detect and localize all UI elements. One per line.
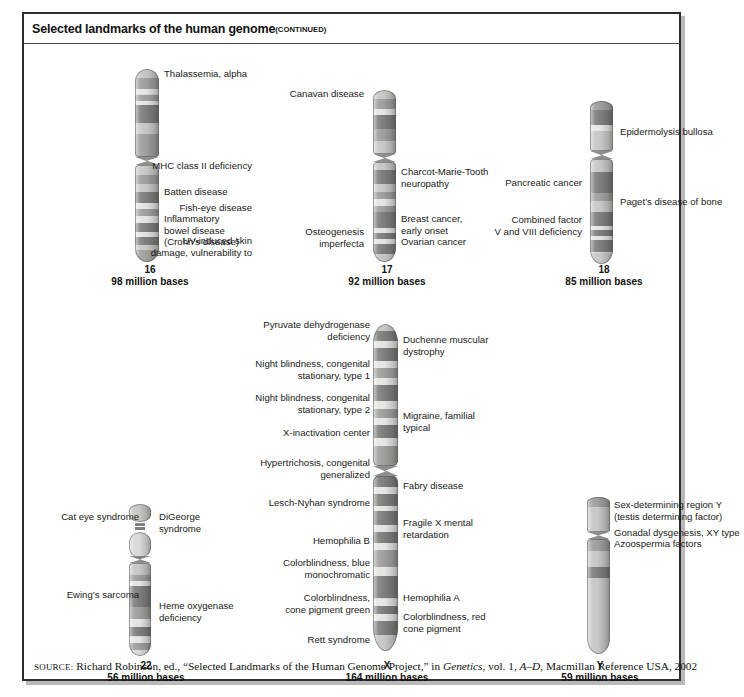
chr18-size: 85 million bases bbox=[524, 276, 684, 288]
chromosome-band bbox=[135, 123, 159, 134]
chromosome-band bbox=[373, 212, 396, 228]
chromosome-band bbox=[373, 361, 398, 368]
chromosome-band bbox=[135, 105, 159, 123]
chromosome-band bbox=[587, 567, 610, 579]
figure-title-text: Selected landmarks of the human genome bbox=[32, 22, 275, 36]
chr16-name: 16 bbox=[90, 264, 210, 276]
chromosome-band bbox=[373, 425, 398, 438]
source-part-3: , Macmillan Reference USA, 2002 bbox=[540, 660, 697, 672]
chromosome-band bbox=[590, 131, 613, 151]
chr16-size: 98 million bases bbox=[70, 276, 230, 288]
chromatid-arm bbox=[587, 539, 610, 654]
chry-label-right-1: Gonadal dysgenesis, XY type bbox=[614, 527, 744, 539]
centromere bbox=[129, 556, 151, 563]
chromosome-18 bbox=[590, 101, 613, 264]
chr22-label-left-1: Ewing’s sarcoma bbox=[34, 589, 139, 601]
chromosome-band bbox=[129, 563, 151, 575]
chromosome-band bbox=[135, 69, 159, 78]
centromere bbox=[587, 532, 610, 539]
chry-label-right-2: Azoospermia factors bbox=[614, 538, 744, 550]
chromatid-arm bbox=[129, 563, 151, 656]
chrx-label-left-1: Night blindness, congenital stationary, … bbox=[242, 358, 370, 381]
chromosome-band bbox=[135, 216, 159, 223]
chromosome-band bbox=[373, 446, 398, 466]
chr16-label-left-0: MHC class II deficiency bbox=[34, 160, 252, 172]
centromere bbox=[590, 151, 613, 159]
chr18-label-right-1: Paget’s disease of bone bbox=[620, 196, 744, 208]
chromosome-band bbox=[373, 476, 398, 487]
chromatid-arm bbox=[590, 159, 613, 264]
chr17-size: 92 million bases bbox=[307, 276, 467, 288]
chromosome-band bbox=[373, 543, 398, 550]
chromatid-arm bbox=[129, 532, 151, 558]
chromosome-x bbox=[373, 324, 398, 651]
chr17-name: 17 bbox=[327, 264, 447, 276]
chromosome-band bbox=[590, 193, 613, 201]
chromosome-band bbox=[587, 551, 610, 567]
chrx-label-left-9: Rett syndrome bbox=[242, 634, 370, 646]
chromatid-arm bbox=[590, 101, 613, 151]
chromosome-band bbox=[129, 643, 151, 650]
chromosome-band bbox=[590, 201, 613, 212]
chrx-size: 164 million bases bbox=[302, 672, 472, 684]
chrx-label-left-3: X-inactivation center bbox=[242, 427, 370, 439]
chrx-label-right-5: Colorblindness, red cone pigment bbox=[403, 611, 553, 634]
chromosome-band bbox=[373, 184, 396, 192]
chromosome-band bbox=[373, 99, 396, 109]
chromosome-band bbox=[373, 576, 398, 599]
chromosome-band bbox=[135, 78, 159, 89]
chromosome-band bbox=[590, 110, 613, 125]
chromosome-band bbox=[373, 141, 396, 154]
chrx-label-right-1: Migraine, familial typical bbox=[403, 410, 553, 433]
chromosome-band bbox=[373, 511, 398, 525]
satellite-stalk bbox=[135, 523, 145, 526]
chromosome-band bbox=[373, 254, 396, 262]
chromosome-band bbox=[373, 129, 396, 141]
chromosome-band bbox=[129, 607, 151, 619]
source-citation: SOURCE: Richard Robinson, ed., “Selected… bbox=[34, 660, 697, 672]
chrx-label-left-5: Lesch-Nyhan syndrome bbox=[242, 497, 370, 509]
chromosome-band bbox=[590, 101, 613, 110]
chromosome-band bbox=[587, 578, 610, 654]
figure-title-continued: (CONTINUED) bbox=[275, 25, 326, 34]
chromosome-band bbox=[129, 627, 151, 636]
chromosome-band bbox=[373, 438, 398, 447]
chromosome-band bbox=[135, 184, 159, 192]
figure-title: Selected landmarks of the human genome(C… bbox=[32, 22, 326, 36]
chr16-label-right-1: Batten disease bbox=[164, 186, 344, 198]
satellite-stalk bbox=[135, 527, 145, 530]
chromosome-band bbox=[373, 331, 398, 341]
chromosome-band bbox=[135, 175, 159, 185]
chromosome-band bbox=[587, 539, 610, 551]
chromosome-band bbox=[587, 523, 610, 532]
chromatid-arm bbox=[587, 497, 610, 532]
chromosome-band bbox=[373, 90, 396, 99]
chromosome-band bbox=[373, 550, 398, 568]
chromosome-band bbox=[373, 635, 398, 651]
chromosome-17 bbox=[373, 90, 396, 262]
chromosome-y bbox=[587, 497, 610, 654]
chromosome-band bbox=[129, 619, 151, 627]
chromosome-band bbox=[373, 418, 398, 425]
chr18-label-left-1: Combined factor V and VIII deficiency bbox=[456, 214, 582, 237]
chromosome-band bbox=[590, 253, 613, 265]
chromosome-band bbox=[373, 487, 398, 494]
chromosome-band bbox=[373, 324, 398, 331]
chromatid-arm bbox=[373, 162, 396, 262]
chr17-label-left-1: Osteogenesis imperfecta bbox=[256, 226, 364, 249]
chromosome-band bbox=[373, 525, 398, 532]
source-part-2: , vol. 1, bbox=[483, 660, 520, 672]
chromosome-band bbox=[587, 497, 610, 507]
chromosome-band bbox=[373, 115, 396, 129]
source-label: SOURCE: bbox=[34, 662, 73, 672]
chr16-label-left-1: Fish-eye disease bbox=[34, 202, 252, 214]
chromosome-band bbox=[373, 599, 398, 606]
chromosome-band bbox=[373, 494, 398, 506]
chr22-label-left-0: Cat eye syndrome bbox=[34, 511, 139, 523]
chrx-label-left-8: Colorblindness, cone pigment green bbox=[242, 592, 370, 615]
chry-label-right-0: Sex-determining region Y (testis determi… bbox=[614, 499, 744, 522]
chrx-label-left-7: Colorblindness, blue monochromatic bbox=[242, 557, 370, 580]
chromosome-band bbox=[590, 212, 613, 227]
chr18-label-left-0: Pancreatic cancer bbox=[456, 177, 582, 189]
chromosome-band bbox=[135, 223, 159, 232]
